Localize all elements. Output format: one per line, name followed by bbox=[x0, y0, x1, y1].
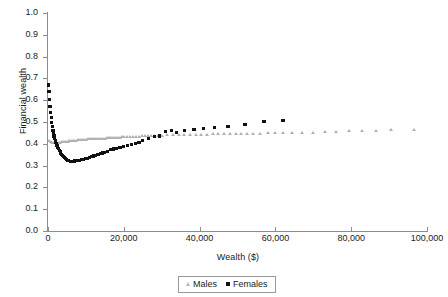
data-point bbox=[47, 83, 50, 86]
data-point bbox=[290, 131, 294, 134]
data-point bbox=[126, 144, 129, 147]
data-point bbox=[165, 133, 169, 136]
data-point bbox=[194, 133, 198, 136]
data-point bbox=[153, 135, 156, 138]
x-axis-title: Wealth ($) bbox=[48, 252, 428, 262]
data-point bbox=[311, 131, 315, 134]
x-tick bbox=[427, 227, 428, 232]
legend-item-females: Females bbox=[226, 279, 268, 289]
data-point bbox=[183, 129, 186, 132]
y-tick-label: 0.5 bbox=[0, 116, 38, 126]
chart-figure: Financial wealth Wealth ($) 0.00.10.20.3… bbox=[0, 0, 448, 297]
data-point bbox=[137, 141, 140, 144]
data-point bbox=[211, 132, 215, 135]
data-point bbox=[245, 132, 249, 135]
data-point bbox=[158, 134, 161, 137]
data-point bbox=[412, 128, 416, 131]
x-tick-label: 80,000 bbox=[316, 233, 386, 243]
x-axis-line bbox=[47, 231, 428, 232]
data-point bbox=[205, 133, 209, 136]
data-point bbox=[122, 145, 125, 148]
data-point bbox=[199, 133, 203, 136]
x-tick-label: 20,000 bbox=[89, 233, 159, 243]
data-point bbox=[50, 116, 53, 119]
data-point bbox=[147, 137, 150, 140]
legend-label-males: Males bbox=[193, 279, 217, 289]
plot-area bbox=[48, 13, 427, 231]
legend-item-males: Males bbox=[186, 279, 217, 289]
y-tick-label: 0.2 bbox=[0, 181, 38, 191]
data-point bbox=[323, 130, 327, 133]
data-point bbox=[164, 130, 167, 133]
data-point bbox=[281, 119, 284, 122]
y-tick-label: 0.1 bbox=[0, 203, 38, 213]
data-point bbox=[134, 142, 137, 145]
data-point bbox=[228, 132, 232, 135]
data-point bbox=[47, 90, 50, 93]
data-point bbox=[170, 129, 173, 132]
data-point bbox=[202, 127, 205, 130]
x-tick-label: 0 bbox=[13, 233, 83, 243]
data-point bbox=[281, 131, 285, 134]
y-tick-label: 0.8 bbox=[0, 51, 38, 61]
data-point bbox=[389, 128, 393, 131]
data-point bbox=[300, 131, 304, 134]
data-point bbox=[49, 111, 52, 114]
data-point bbox=[175, 131, 178, 134]
data-point bbox=[222, 132, 226, 135]
data-point bbox=[266, 131, 270, 134]
triangle-marker-icon bbox=[186, 282, 190, 286]
data-point bbox=[216, 132, 220, 135]
chart-legend: Males Females bbox=[178, 276, 276, 293]
data-point bbox=[192, 128, 195, 131]
data-point bbox=[251, 132, 255, 135]
data-point bbox=[188, 133, 192, 136]
data-point bbox=[48, 105, 51, 108]
data-point bbox=[182, 133, 186, 136]
x-tick-label: 100,000 bbox=[392, 233, 448, 243]
data-point bbox=[347, 129, 351, 132]
square-marker-icon bbox=[226, 282, 230, 286]
data-point bbox=[141, 139, 144, 142]
data-point bbox=[50, 121, 53, 124]
data-point bbox=[213, 126, 216, 129]
data-point bbox=[239, 132, 243, 135]
y-tick-label: 1.0 bbox=[0, 7, 38, 17]
data-point bbox=[226, 125, 229, 128]
data-point bbox=[334, 130, 338, 133]
data-point bbox=[234, 132, 238, 135]
data-point bbox=[273, 131, 277, 134]
data-point bbox=[243, 123, 246, 126]
data-point bbox=[118, 146, 121, 149]
y-tick-label: 0.6 bbox=[0, 94, 38, 104]
legend-label-females: Females bbox=[233, 279, 268, 289]
x-tick-label: 40,000 bbox=[165, 233, 235, 243]
x-tick-label: 60,000 bbox=[240, 233, 310, 243]
data-point bbox=[48, 98, 51, 101]
data-point bbox=[115, 147, 118, 150]
data-point bbox=[374, 129, 378, 132]
y-tick-label: 0.7 bbox=[0, 72, 38, 82]
data-point bbox=[262, 120, 265, 123]
data-point bbox=[258, 132, 262, 135]
y-tick-label: 0.9 bbox=[0, 29, 38, 39]
data-point bbox=[360, 129, 364, 132]
y-tick-label: 0.4 bbox=[0, 138, 38, 148]
data-point bbox=[130, 143, 133, 146]
y-tick-label: 0.3 bbox=[0, 160, 38, 170]
